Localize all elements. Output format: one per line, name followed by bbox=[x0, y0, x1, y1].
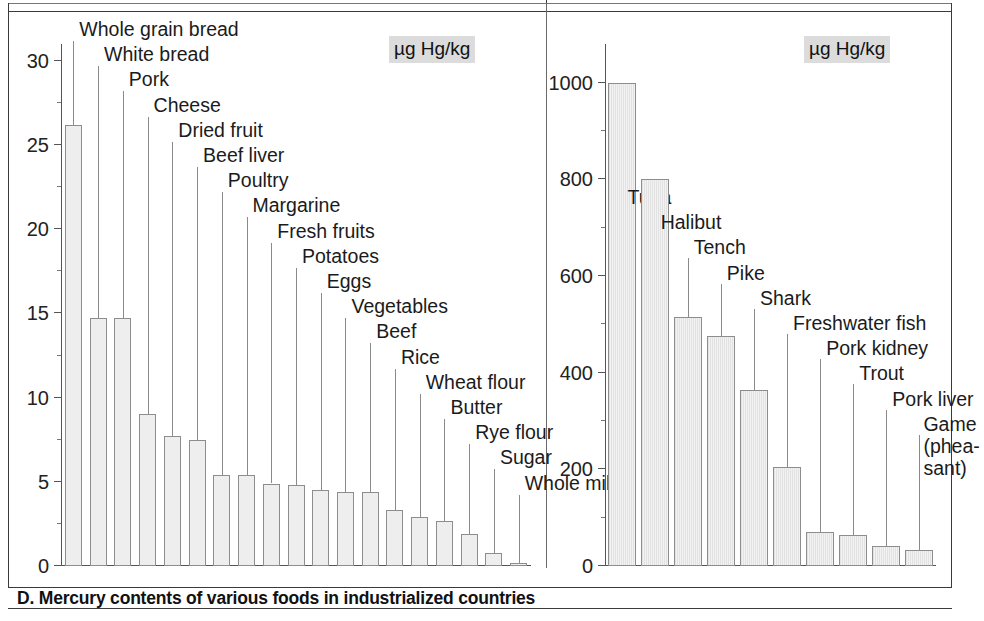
frame-right-border bbox=[951, 3, 952, 588]
bar bbox=[65, 125, 82, 566]
label-leader-line bbox=[247, 217, 248, 475]
y-axis-minor-tick bbox=[57, 439, 62, 440]
y-axis-tick bbox=[598, 275, 605, 276]
y-axis-minor-tick bbox=[57, 270, 62, 271]
label-leader-line bbox=[345, 318, 346, 492]
y-axis-tick bbox=[54, 481, 61, 482]
y-axis-tick-label: 30 bbox=[0, 51, 49, 71]
y-axis-tick bbox=[598, 372, 605, 373]
y-axis-minor-tick bbox=[57, 186, 62, 187]
bar bbox=[362, 492, 379, 566]
bar bbox=[263, 484, 280, 567]
bar bbox=[312, 490, 329, 566]
frame-bottom-hairline bbox=[8, 608, 952, 609]
bar-label: Margarine bbox=[253, 194, 341, 217]
bar bbox=[411, 517, 428, 566]
right-plot-area: 02004006008001000TunaHalibutTenchPikeSha… bbox=[605, 44, 936, 566]
y-axis-tick bbox=[54, 228, 61, 229]
bar bbox=[485, 553, 502, 566]
y-axis-tick-label: 600 bbox=[523, 266, 593, 286]
label-leader-line bbox=[296, 268, 297, 485]
label-leader-line bbox=[494, 469, 495, 552]
bar-label: Poultry bbox=[228, 169, 289, 192]
bar-label: Rice bbox=[401, 346, 440, 369]
label-leader-line bbox=[919, 435, 920, 550]
bar-label: Potatoes bbox=[302, 245, 379, 268]
bar bbox=[288, 485, 305, 566]
label-leader-line bbox=[688, 258, 689, 317]
label-leader-line bbox=[820, 359, 821, 532]
bar bbox=[806, 532, 834, 566]
label-leader-line bbox=[172, 142, 173, 437]
y-axis-tick bbox=[598, 178, 605, 179]
bar-label: White bread bbox=[104, 43, 209, 66]
y-axis-tick bbox=[598, 565, 605, 566]
frame-top-hairline bbox=[8, 3, 952, 4]
y-axis-tick-label: 15 bbox=[0, 303, 49, 323]
bar bbox=[90, 318, 107, 566]
y-axis-tick bbox=[54, 397, 61, 398]
y-axis-tick-label: 0 bbox=[523, 556, 593, 576]
y-axis-minor-tick bbox=[601, 323, 606, 324]
bar-label: Beef liver bbox=[203, 144, 284, 167]
bar-label: Cheese bbox=[154, 94, 221, 117]
bar-label: Wheat flour bbox=[426, 371, 526, 394]
y-axis-tick-label: 20 bbox=[0, 219, 49, 239]
bar-label: Vegetables bbox=[351, 295, 448, 318]
y-axis-minor-tick bbox=[57, 102, 62, 103]
label-leader-line bbox=[444, 419, 445, 521]
y-axis-minor-tick bbox=[601, 420, 606, 421]
left-plot-area: 051015202530Whole grain breadWhite bread… bbox=[61, 44, 531, 566]
bar-label: Beef bbox=[376, 320, 416, 343]
y-axis-line bbox=[61, 44, 62, 566]
bar-label: Pork bbox=[129, 68, 169, 91]
label-leader-line bbox=[321, 293, 322, 490]
y-axis-line bbox=[605, 44, 606, 566]
label-leader-line bbox=[271, 243, 272, 484]
bar bbox=[213, 475, 230, 566]
bar-label: Whole grain bread bbox=[79, 18, 238, 41]
bar-label: Tench bbox=[694, 236, 746, 259]
right-chart-panel: µg Hg/kg 02004006008001000TunaHalibutTen… bbox=[548, 11, 951, 567]
bar-label: Butter bbox=[450, 396, 502, 419]
label-leader-line bbox=[370, 343, 371, 492]
label-leader-line bbox=[73, 41, 74, 125]
bar-label: Pork kidney bbox=[826, 337, 928, 360]
y-axis-tick-label: 800 bbox=[523, 169, 593, 189]
bar bbox=[114, 318, 131, 566]
bar-label: Pork liver bbox=[892, 388, 973, 411]
y-axis-minor-tick bbox=[601, 130, 606, 131]
label-leader-line bbox=[469, 444, 470, 534]
bar-label: Dried fruit bbox=[178, 119, 263, 142]
bar-label: Halibut bbox=[661, 211, 722, 234]
y-axis-tick bbox=[598, 82, 605, 83]
bar bbox=[839, 535, 867, 566]
bar bbox=[337, 492, 354, 566]
label-leader-line bbox=[519, 495, 520, 563]
bar bbox=[707, 336, 735, 566]
y-axis-tick-label: 400 bbox=[523, 363, 593, 383]
figure-caption: D. Mercury contents of various foods in … bbox=[17, 588, 947, 608]
y-axis-tick-label: 10 bbox=[0, 388, 49, 408]
bar bbox=[436, 521, 453, 566]
label-leader-line bbox=[754, 309, 755, 390]
y-axis-tick bbox=[598, 468, 605, 469]
bar-label: Shark bbox=[760, 287, 811, 310]
label-leader-line bbox=[98, 66, 99, 318]
bar bbox=[905, 550, 933, 566]
label-leader-line bbox=[123, 91, 124, 318]
label-leader-line bbox=[853, 384, 854, 534]
label-leader-line bbox=[148, 117, 149, 415]
label-leader-line bbox=[395, 369, 396, 511]
label-leader-line bbox=[721, 284, 722, 337]
bar bbox=[641, 179, 669, 566]
label-leader-line bbox=[787, 334, 788, 467]
bar bbox=[238, 475, 255, 566]
bar bbox=[189, 440, 206, 566]
bar-label: Trout bbox=[859, 362, 904, 385]
bar-label: Eggs bbox=[327, 270, 371, 293]
label-leader-line bbox=[886, 410, 887, 546]
bar bbox=[164, 436, 181, 566]
bar bbox=[608, 83, 636, 566]
y-axis-tick-label: 1000 bbox=[523, 73, 593, 93]
